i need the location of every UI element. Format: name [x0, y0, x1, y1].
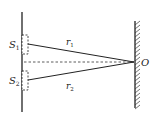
path-r2 [28, 62, 134, 80]
double-slit-diagram: S1 S2 r1 r2 O [0, 0, 159, 123]
path-r1 [28, 44, 134, 62]
screen-hatching [135, 21, 140, 109]
label-s2: S2 [9, 75, 20, 87]
label-s1: S1 [9, 39, 20, 51]
label-o: O [141, 57, 149, 68]
label-r2: r2 [66, 81, 74, 92]
slit-s2-box [22, 71, 28, 90]
label-r1: r1 [66, 37, 74, 48]
slit-s1-box [22, 35, 28, 54]
